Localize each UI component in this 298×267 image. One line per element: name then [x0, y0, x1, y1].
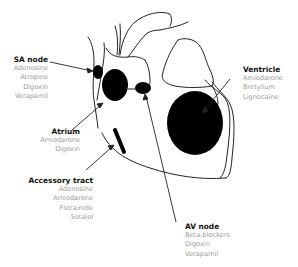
- ventricle-drug: Bretylium: [243, 83, 283, 92]
- av-node-drug: Verapamil: [185, 250, 230, 259]
- sa-node-title: SA node: [0, 55, 48, 64]
- atrium-drug: Digoxin: [0, 145, 80, 154]
- av-node-label: AV node Beta-blockers Digoxin Verapamil: [185, 222, 230, 259]
- accessory-tract-shape: [115, 130, 124, 152]
- sa-node-drug: Adenosine: [0, 64, 48, 73]
- aorta-outline: [115, 26, 118, 55]
- av-node-drug: Digoxin: [185, 240, 230, 249]
- av-node-shape: [135, 82, 151, 94]
- accessory-tract-pointer: [86, 146, 113, 170]
- accessory-tract-label: Accessory tract Adenosine Amiodarone Fle…: [0, 176, 93, 222]
- av-node-title: AV node: [185, 222, 230, 231]
- sa-node-pointer: [50, 62, 92, 71]
- accessory-tract-drug: Sotalol: [0, 213, 93, 222]
- accessory-tract-drug: Adenosine: [0, 185, 93, 194]
- sa-node-label: SA node Adenosine Atropine Digoxin Verap…: [0, 55, 48, 101]
- atrium-label: Atrium Amiodarone Digoxin: [0, 127, 80, 155]
- ventricle-label: Ventricle Amiodarone Bretylium Lignocain…: [243, 65, 283, 102]
- ventricle-shape: [167, 91, 223, 155]
- accessory-tract-drug: Flecainide: [0, 204, 93, 213]
- atrium-shape: [102, 69, 128, 101]
- sa-node-drug: Digoxin: [0, 83, 48, 92]
- atrium-title: Atrium: [0, 127, 80, 136]
- av-node-drug: Beta-blockers: [185, 231, 230, 240]
- sa-node-drug: Verapamil: [0, 92, 48, 101]
- ventricle-drug: Amiodarone: [243, 74, 283, 83]
- accessory-tract-title: Accessory tract: [0, 176, 93, 185]
- accessory-tract-drug: Amiodarone: [0, 194, 93, 203]
- ventricle-drug: Lignocaine: [243, 93, 283, 102]
- ventricle-title: Ventricle: [243, 65, 283, 74]
- sa-node-drug: Atropine: [0, 73, 48, 82]
- sa-node-shape: [93, 65, 103, 79]
- atrium-drug: Amiodarone: [0, 136, 80, 145]
